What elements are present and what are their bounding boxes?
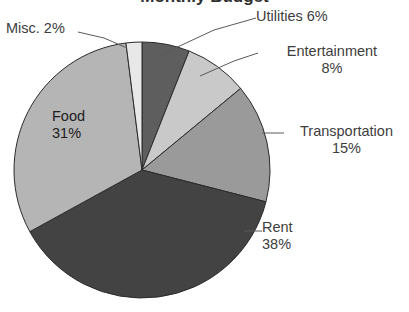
slice-label-rent: Rent 38% — [262, 219, 362, 253]
slice-label-entertainment: Entertainment 8% — [258, 43, 406, 77]
slice-label-food: Food 31% — [52, 108, 124, 142]
slice-label-misc: Misc. 2% — [6, 20, 111, 37]
pie-slices — [14, 42, 270, 298]
pie-chart: Monthly Budget Misc. 2% Utilities 6% Ent… — [0, 0, 409, 312]
slice-label-transportation: Transportation 15% — [284, 123, 409, 157]
slice-label-utilities: Utilities 6% — [256, 8, 406, 25]
